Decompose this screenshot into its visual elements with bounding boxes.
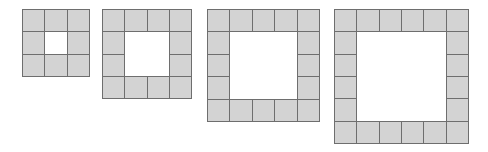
tile: [401, 121, 424, 144]
tile: [252, 99, 275, 122]
tile: [423, 9, 447, 32]
tile: [22, 54, 45, 77]
tile: [44, 9, 68, 32]
tile: [102, 76, 125, 99]
tile: [229, 9, 253, 32]
tile: [334, 121, 357, 144]
tile: [297, 9, 320, 32]
tile: [207, 9, 230, 32]
tile: [169, 76, 192, 99]
tile: [356, 121, 380, 144]
tile: [207, 76, 230, 100]
tile: [102, 54, 125, 77]
tile: [124, 76, 148, 99]
tile: [274, 9, 298, 32]
figure-2: [102, 9, 191, 98]
tile: [252, 9, 275, 32]
tile: [102, 31, 125, 55]
tile: [67, 9, 90, 32]
tile: [169, 54, 192, 77]
tile: [446, 31, 469, 55]
tile: [147, 9, 170, 32]
tile: [22, 31, 45, 55]
tile: [334, 76, 357, 99]
tile: [446, 9, 469, 32]
tile: [334, 9, 357, 32]
tile: [379, 121, 402, 144]
tile: [297, 54, 320, 77]
tile: [297, 31, 320, 55]
tile: [446, 98, 469, 122]
tile: [67, 54, 90, 77]
tile: [124, 9, 148, 32]
tile: [356, 9, 380, 32]
tile: [169, 31, 192, 55]
tile: [207, 31, 230, 55]
tile: [207, 99, 230, 122]
figure-3: [207, 9, 319, 121]
tile: [334, 98, 357, 122]
tile: [207, 54, 230, 77]
tile: [379, 9, 402, 32]
tile: [169, 9, 192, 32]
figure-1: [22, 9, 89, 76]
figure-4: [334, 9, 468, 143]
tile: [297, 76, 320, 100]
tile: [446, 121, 469, 144]
tile: [297, 99, 320, 122]
tile: [423, 121, 447, 144]
tile: [22, 9, 45, 32]
tile: [446, 54, 469, 77]
tile: [229, 99, 253, 122]
tile: [274, 99, 298, 122]
tile: [334, 54, 357, 77]
tile: [147, 76, 170, 99]
tile: [102, 9, 125, 32]
tile: [446, 76, 469, 99]
tile: [67, 31, 90, 55]
tile: [334, 31, 357, 55]
tile: [401, 9, 424, 32]
tile: [44, 54, 68, 77]
